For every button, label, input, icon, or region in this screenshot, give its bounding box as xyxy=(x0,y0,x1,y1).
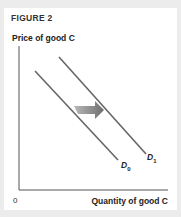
plot-area xyxy=(0,0,181,217)
demand-curve-d1 xyxy=(59,57,146,154)
d0-label: D0 xyxy=(121,160,130,172)
demand-curve-d0 xyxy=(35,71,118,160)
shift-arrow-icon xyxy=(74,101,104,119)
origin-label: 0 xyxy=(13,196,17,205)
x-axis-label: Quantity of good C xyxy=(92,196,169,206)
d1-label: D1 xyxy=(147,152,156,164)
